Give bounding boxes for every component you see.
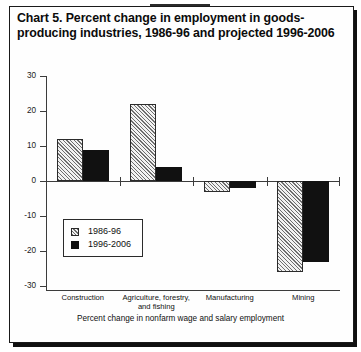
legend-swatch-hatched-icon bbox=[71, 228, 79, 236]
y-axis-tick-label: -20 bbox=[24, 247, 36, 255]
legend-label-1996-2006: 1996-2006 bbox=[88, 240, 131, 249]
y-axis-line bbox=[46, 76, 47, 291]
chart-legend: 1986-96 1996-2006 bbox=[63, 219, 143, 257]
bar-1986-96-2 bbox=[204, 181, 230, 192]
x-axis-end-tick bbox=[339, 177, 340, 186]
bar-1996-2006-3 bbox=[303, 181, 329, 262]
chart-title: Chart 5. Percent change in employment in… bbox=[17, 11, 335, 40]
category-label: Manufacturing bbox=[206, 294, 254, 303]
x-axis-line bbox=[46, 290, 340, 291]
category-label: Construction bbox=[61, 294, 104, 303]
plot-area: 3020100-10-20-30 bbox=[46, 76, 340, 291]
y-axis-tick bbox=[40, 286, 47, 287]
y-axis-tick-label: -30 bbox=[24, 282, 36, 290]
bar-1996-2006-2 bbox=[230, 181, 256, 188]
y-axis-tick bbox=[40, 146, 47, 147]
y-axis-tick bbox=[40, 251, 47, 252]
bar-1986-96-3 bbox=[277, 181, 303, 272]
category-label: Mining bbox=[292, 294, 314, 303]
legend-label-1986-96: 1986-96 bbox=[88, 227, 121, 236]
y-axis-tick-label: 20 bbox=[27, 107, 36, 115]
bar-1996-2006-1 bbox=[156, 167, 182, 181]
bar-1986-96-0 bbox=[57, 139, 83, 181]
chart-caption: Percent change in nonfarm wage and salar… bbox=[0, 314, 361, 323]
x-axis-separator-tick bbox=[120, 177, 121, 186]
y-axis-tick-label: 0 bbox=[31, 177, 36, 185]
chart-figure: Chart 5. Percent change in employment in… bbox=[0, 0, 361, 352]
y-axis-tick bbox=[40, 76, 47, 77]
y-axis-tick-label: 10 bbox=[27, 142, 36, 150]
legend-item-1986-96: 1986-96 bbox=[71, 225, 131, 238]
x-axis-separator-tick bbox=[193, 177, 194, 186]
bar-1996-2006-0 bbox=[83, 150, 109, 182]
legend-item-1996-2006: 1996-2006 bbox=[71, 238, 131, 251]
bar-1986-96-1 bbox=[130, 104, 156, 181]
y-axis-tick bbox=[40, 111, 47, 112]
category-label: Agriculture, forestry, and fishing bbox=[123, 294, 190, 311]
x-axis-separator-tick bbox=[267, 177, 268, 186]
y-axis-tick bbox=[40, 181, 47, 182]
y-axis-tick-label: 30 bbox=[27, 72, 36, 80]
y-axis-tick-label: -10 bbox=[24, 212, 36, 220]
legend-swatch-solid-icon bbox=[71, 241, 79, 249]
y-axis-tick bbox=[40, 216, 47, 217]
